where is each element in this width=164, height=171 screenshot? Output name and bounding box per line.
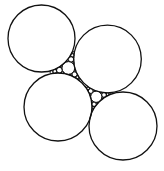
gap-circle (94, 106, 95, 107)
gap-circle (73, 63, 74, 64)
gap-circle (100, 92, 101, 93)
gap-circle (66, 61, 67, 62)
gap-circle (92, 106, 93, 107)
circle-c (24, 73, 92, 141)
gap-circle (75, 69, 76, 70)
circle-packing-diagram (0, 0, 164, 171)
gap-circle (91, 100, 92, 101)
gap-circle (85, 86, 87, 88)
gap-circle (95, 90, 96, 91)
large-circles (8, 5, 157, 160)
gap-circle (77, 75, 78, 76)
gap-circle (97, 102, 98, 103)
gap-circle (61, 72, 62, 73)
gap-circle (69, 74, 70, 75)
gap-circle (88, 90, 89, 91)
gap-circle (106, 95, 107, 96)
gap-circle (102, 98, 103, 99)
gap-circle (72, 52, 74, 54)
diagram-canvas (0, 0, 164, 171)
gap-circle (75, 77, 76, 78)
circle-b (74, 25, 142, 93)
gap-circle (109, 93, 111, 95)
gap-circle (78, 78, 80, 80)
gap-circle (106, 93, 107, 94)
gap-circle (92, 109, 93, 110)
gap-circle (59, 67, 60, 68)
gap-circle (90, 95, 91, 96)
gap-circle (89, 88, 90, 89)
circle-a (8, 5, 75, 72)
circle-d (89, 92, 157, 160)
